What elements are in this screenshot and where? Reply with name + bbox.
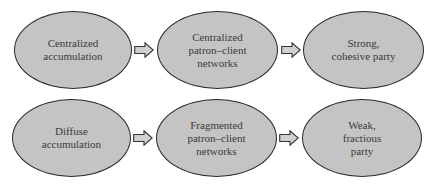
node-diffuse-accumulation: Diffuse accumulation (12, 99, 131, 177)
node-label: Strong, cohesive party (332, 37, 396, 63)
node-weak-fractious-party: Weak, fractious party (302, 99, 422, 177)
node-label: Fragmented patron–client networks (187, 119, 245, 158)
node-centralized-patron-client-networks: Centralized patron–client networks (157, 11, 278, 89)
right-block-arrow-icon (133, 130, 153, 146)
node-label: Weak, fractious party (343, 119, 381, 158)
right-block-arrow-icon (281, 42, 301, 58)
right-block-arrow-icon (134, 42, 154, 58)
node-strong-cohesive-party: Strong, cohesive party (303, 11, 424, 89)
node-fragmented-patron-client-networks: Fragmented patron–client networks (156, 99, 277, 177)
node-label: Centralized patron–client networks (188, 31, 246, 70)
node-label: Diffuse accumulation (42, 125, 101, 151)
right-block-arrow-icon (279, 130, 299, 146)
node-centralized-accumulation: Centralized accumulation (14, 11, 132, 89)
node-label: Centralized accumulation (43, 37, 102, 63)
